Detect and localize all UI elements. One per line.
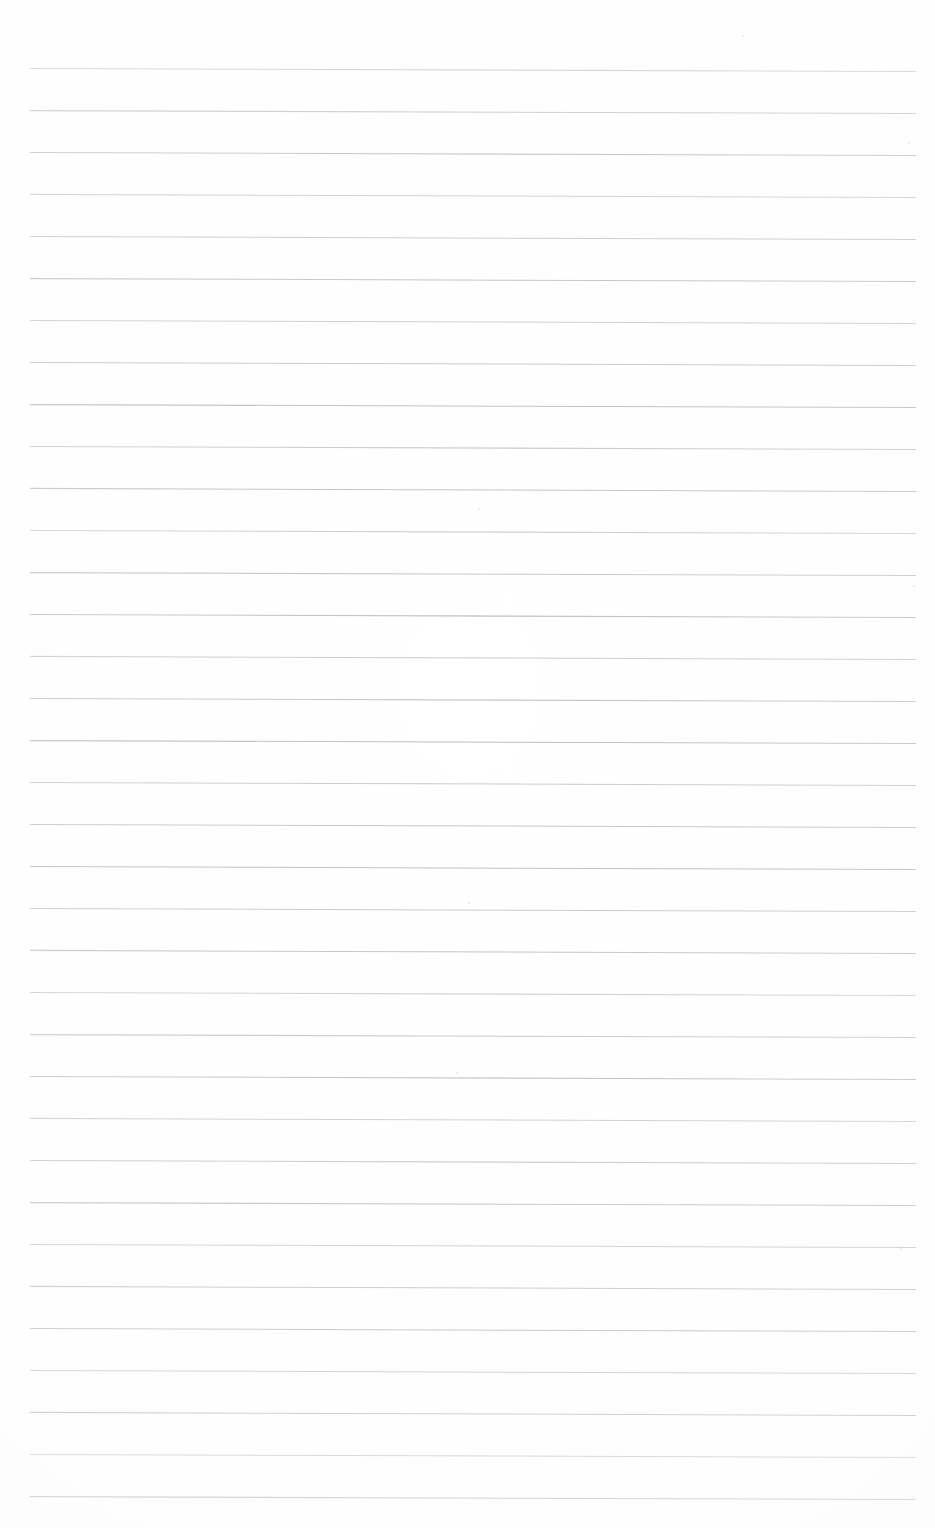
rule-line xyxy=(0,151,935,154)
rule-line xyxy=(0,613,935,616)
rule-line xyxy=(0,1117,935,1120)
rule-line xyxy=(0,1453,935,1456)
rule-line xyxy=(0,319,935,322)
rule-line xyxy=(0,907,935,910)
rule-line xyxy=(0,193,935,196)
rule-line xyxy=(0,655,935,658)
rule-line xyxy=(0,949,935,952)
rule-line xyxy=(0,235,935,238)
rule-line xyxy=(0,1411,935,1414)
rule-line xyxy=(0,697,935,700)
rule-line xyxy=(0,445,935,448)
rule-line xyxy=(0,67,935,70)
rule-line xyxy=(0,403,935,406)
scanned-page xyxy=(0,0,935,1528)
rule-line xyxy=(0,781,935,784)
rule-line xyxy=(0,361,935,364)
rule-line xyxy=(0,529,935,532)
rule-line xyxy=(0,1495,935,1498)
rule-line xyxy=(0,1369,935,1372)
rule-line xyxy=(0,571,935,574)
rule-line xyxy=(0,739,935,742)
rule-line xyxy=(0,1075,935,1078)
rule-line xyxy=(0,1159,935,1162)
rule-line xyxy=(0,277,935,280)
rule-line xyxy=(0,1327,935,1330)
rule-line xyxy=(0,991,935,994)
rule-line xyxy=(0,1243,935,1246)
rule-line xyxy=(0,1033,935,1036)
rule-line xyxy=(0,487,935,490)
rule-line xyxy=(0,1201,935,1204)
rule-line xyxy=(0,1285,935,1288)
rule-line xyxy=(0,823,935,826)
rule-line xyxy=(0,865,935,868)
ruled-lines-layer xyxy=(0,0,935,1528)
rule-line xyxy=(0,109,935,112)
